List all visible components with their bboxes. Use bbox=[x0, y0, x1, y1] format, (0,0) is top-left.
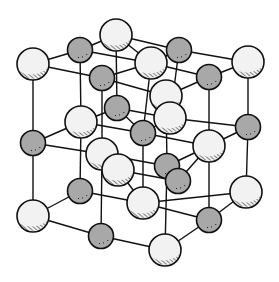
large-ion bbox=[102, 154, 134, 186]
small-ion bbox=[197, 65, 222, 90]
small-ion bbox=[131, 121, 156, 146]
small-ion bbox=[90, 66, 115, 91]
large-ion bbox=[232, 46, 264, 78]
crystal-lattice-diagram bbox=[0, 0, 279, 282]
ions-layer bbox=[17, 19, 264, 266]
small-ion bbox=[167, 38, 192, 63]
lattice-canvas bbox=[0, 0, 279, 282]
large-ion bbox=[100, 19, 132, 51]
large-ion bbox=[17, 48, 49, 80]
large-ion bbox=[127, 187, 159, 219]
small-ion bbox=[68, 179, 93, 204]
large-ion bbox=[17, 200, 49, 232]
large-ion bbox=[154, 102, 186, 134]
large-ion bbox=[149, 234, 181, 266]
small-ion bbox=[236, 115, 261, 140]
small-ion bbox=[21, 131, 46, 156]
small-ion bbox=[68, 38, 93, 63]
small-ion bbox=[105, 96, 130, 121]
large-ion bbox=[135, 47, 167, 79]
large-ion bbox=[230, 176, 262, 208]
large-ion bbox=[193, 130, 225, 162]
large-ion bbox=[65, 106, 97, 138]
small-ion bbox=[89, 224, 114, 249]
small-ion bbox=[197, 208, 222, 233]
small-ion bbox=[166, 169, 191, 194]
